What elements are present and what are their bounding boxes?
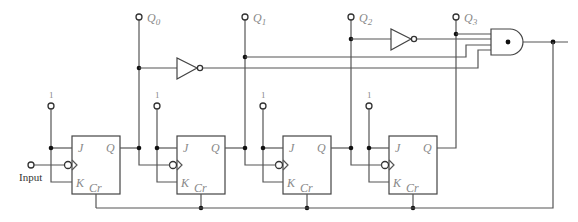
svg-text:Q1: Q1 [253,11,266,27]
counter-circuit-diagram: Input J Q K Cr 1 J Q K Cr 1 [0,0,578,222]
svg-text:Q: Q [106,141,115,155]
svg-text:J: J [183,141,189,155]
svg-text:Cr: Cr [89,181,102,195]
jk-flip-flop-2: J Q K Cr 1 [260,90,331,210]
svg-text:J: J [395,141,401,155]
svg-text:J: J [289,141,295,155]
q0-net: Q0 [120,11,170,165]
q0-label: Q0 [147,11,161,27]
input-terminal: Input [19,162,68,183]
logic-one-label: 1 [49,90,54,100]
inverter-q0 [139,50,491,79]
svg-text:K: K [392,176,402,190]
jk-flip-flop-3: J Q K Cr 1 [366,90,437,210]
inverter-q2 [351,29,491,50]
jk-flip-flop-0: J Q K Cr 1 [48,90,120,208]
svg-text:Q: Q [317,141,326,155]
q1-net: Q1 [225,11,276,165]
svg-text:J: J [78,141,84,155]
svg-text:K: K [180,176,190,190]
input-label: Input [19,171,42,183]
q2-net: Q2 [331,11,382,165]
svg-text:Q: Q [423,141,432,155]
svg-text:Q2: Q2 [359,11,373,27]
svg-text:1: 1 [261,90,266,100]
svg-text:1: 1 [155,90,160,100]
svg-text:Q3: Q3 [464,11,478,27]
svg-text:K: K [75,176,85,190]
q1-to-and-wire [245,45,491,57]
svg-text:Q: Q [211,141,220,155]
and-gate [491,29,568,55]
svg-text:K: K [286,176,296,190]
q3-net: Q3 [437,11,478,148]
svg-text:Cr: Cr [406,181,419,195]
svg-text:1: 1 [367,90,372,100]
jk-flip-flop-1: J Q K Cr 1 [154,90,225,210]
svg-text:Cr: Cr [194,181,207,195]
svg-text:Cr: Cr [300,181,313,195]
